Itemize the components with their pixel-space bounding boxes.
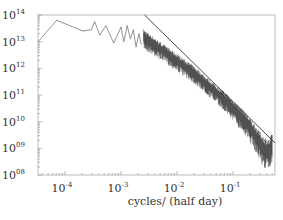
y-tick-label: 1014 [2,8,25,22]
x-tick-label: 10-4 [52,181,73,195]
spectrum-point [130,39,131,40]
spectrum-band [143,29,272,168]
y-tick-exponent: 12 [16,61,25,69]
spectrum-point [83,31,84,32]
spectrum-point [136,47,137,48]
spectrum-point [127,25,128,26]
y-tick-label: 1012 [2,61,25,75]
spectrum-band-strokes [143,29,272,168]
y-tick-label: 1009 [2,141,25,155]
x-tick-label: 10-2 [164,181,185,195]
plot-frame [38,15,275,175]
spectrum-point [139,33,140,34]
x-tick-exponent: -2 [178,181,185,189]
spectrum-point [113,43,114,44]
spectrum-point [94,21,95,22]
y-tick-exponent: 13 [16,35,25,43]
x-tick-label: 10-3 [108,181,129,195]
y-tick-exponent: 09 [16,141,25,149]
x-tick-exponent: -3 [122,181,129,189]
spectrum-chart: 10-410-310-210-1101410131012101110101009… [0,0,283,220]
x-tick-label: 10-1 [220,181,241,195]
spectrum-point [141,44,142,45]
x-tick-exponent: -1 [234,181,241,189]
spectrum-point [91,29,92,30]
y-tick-exponent: 11 [16,88,25,96]
y-tick-exponent: 08 [16,168,25,176]
spectrum-point [56,20,57,21]
spectrum-point [121,27,122,28]
spectrum-point [124,41,125,42]
y-tick-exponent: 10 [16,115,25,123]
x-axis-label: cycles/ (half day) [128,195,223,208]
y-tick-exponent: 14 [16,8,25,16]
power-law-fit-line [145,15,276,143]
y-tick-label: 1011 [2,88,25,102]
spectrum-point [133,29,134,30]
spectrum-point [106,25,107,26]
y-tick-label: 1008 [2,168,25,182]
spectrum-point [99,35,100,36]
y-tick-label: 1013 [2,35,25,49]
y-tick-label: 1010 [2,115,25,129]
x-tick-exponent: -4 [66,181,73,189]
ticks-layer [38,15,272,175]
spectrum-line-low-frequency [38,20,141,47]
